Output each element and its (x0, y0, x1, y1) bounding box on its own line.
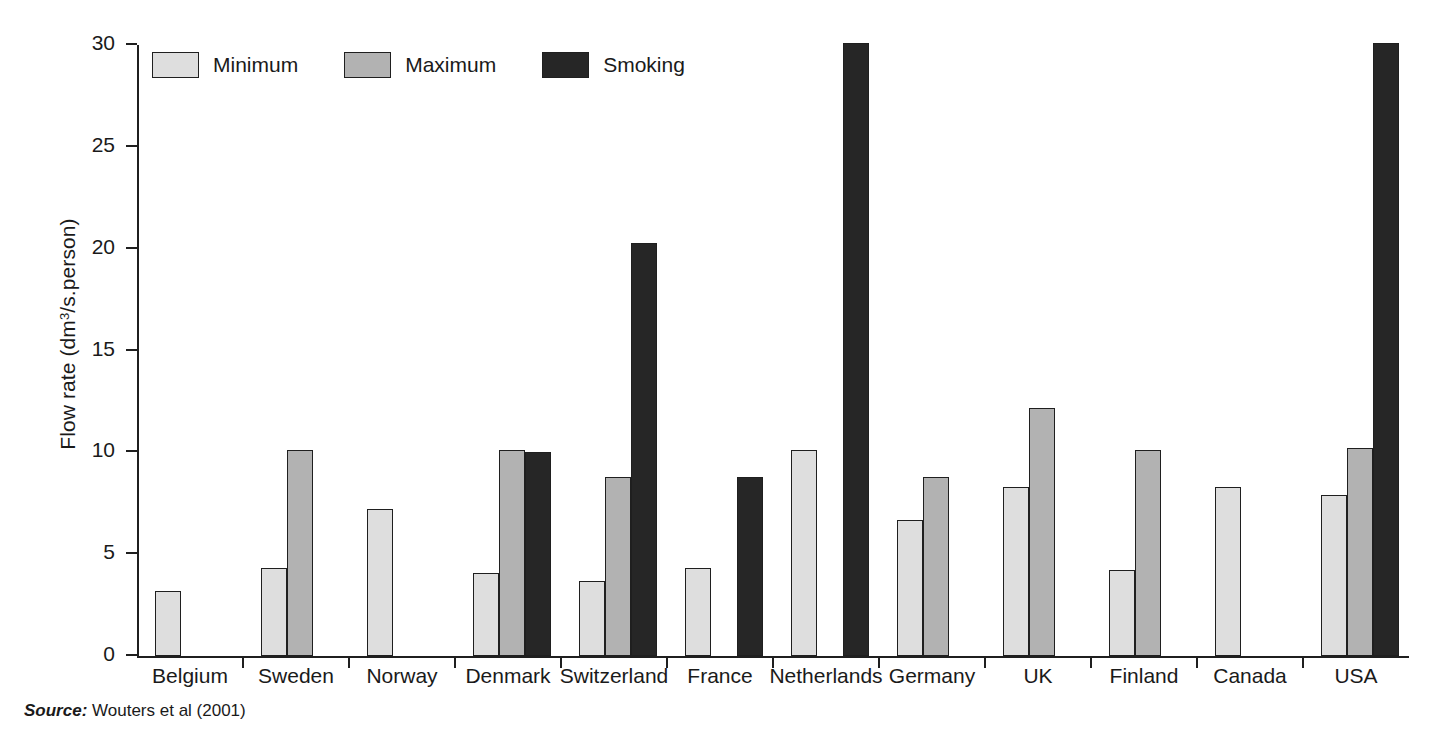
legend-swatch-smoking (542, 52, 589, 78)
y-tick-label: 5 (103, 540, 115, 564)
y-tick-label: 30 (92, 31, 115, 55)
bar-netherlands-smoking (843, 43, 869, 656)
legend-item-smoking: Smoking (542, 52, 685, 78)
legend-item-maximum: Maximum (344, 52, 496, 78)
legend-label-smoking: Smoking (603, 53, 685, 77)
y-tick-label: 0 (103, 642, 115, 666)
x-axis-label-usa: USA (1334, 664, 1377, 688)
legend-item-minimum: Minimum (152, 52, 298, 78)
bar-denmark-maximum (499, 450, 525, 656)
bar-switzerland-maximum (605, 477, 631, 656)
legend-label-minimum: Minimum (213, 53, 298, 77)
bar-uk-minimum (1003, 487, 1029, 656)
x-axis-label-denmark: Denmark (465, 664, 550, 688)
chart-figure: Flow rate (dm3/s.person) 051015202530 Be… (0, 0, 1430, 738)
source-prefix: Source: (24, 701, 87, 720)
x-axis-label-germany: Germany (889, 664, 975, 688)
bar-germany-maximum (923, 477, 949, 656)
bar-germany-minimum (897, 520, 923, 656)
bar-sweden-maximum (287, 450, 313, 656)
legend-swatch-minimum (152, 52, 199, 78)
x-tick-mark (1196, 658, 1198, 668)
bar-usa-minimum (1321, 495, 1347, 656)
y-tick-label: 25 (92, 133, 115, 157)
y-axis-line (137, 45, 139, 656)
bar-uk-maximum (1029, 408, 1055, 656)
x-axis-label-netherlands: Netherlands (769, 664, 882, 688)
y-tick-label: 15 (92, 337, 115, 361)
y-tick-mark (126, 552, 137, 554)
source-text: Wouters et al (2001) (92, 701, 246, 720)
x-tick-mark (1302, 658, 1304, 668)
bar-switzerland-minimum (579, 581, 605, 656)
y-tick-mark (126, 247, 137, 249)
x-axis-label-finland: Finland (1110, 664, 1179, 688)
x-axis-label-canada: Canada (1213, 664, 1287, 688)
source-note: Source: Wouters et al (2001) (24, 701, 246, 721)
legend-label-maximum: Maximum (405, 53, 496, 77)
bar-denmark-minimum (473, 573, 499, 657)
x-axis-label-sweden: Sweden (258, 664, 334, 688)
bar-denmark-smoking (525, 452, 551, 656)
bar-belgium-minimum (155, 591, 181, 656)
bar-sweden-minimum (261, 568, 287, 656)
x-axis-label-uk: UK (1023, 664, 1052, 688)
bar-france-smoking (737, 477, 763, 656)
y-tick-label: 10 (92, 438, 115, 462)
bar-netherlands-minimum (791, 450, 817, 656)
y-tick-label: 20 (92, 235, 115, 259)
bar-usa-smoking (1373, 43, 1399, 656)
plot-area: 051015202530 BelgiumSwedenNorwayDenmarkS… (137, 45, 1409, 656)
x-tick-mark (1090, 658, 1092, 668)
bar-norway-minimum (367, 509, 393, 656)
x-axis-label-switzerland: Switzerland (560, 664, 669, 688)
bar-canada-minimum (1215, 487, 1241, 656)
y-tick-mark (126, 349, 137, 351)
y-axis-label-superscript: 3 (57, 313, 72, 320)
bar-finland-maximum (1135, 450, 1161, 656)
y-tick-mark (126, 654, 137, 656)
bar-france-minimum (685, 568, 711, 656)
x-tick-mark (242, 658, 244, 668)
x-tick-mark (454, 658, 456, 668)
x-axis-label-norway: Norway (366, 664, 437, 688)
y-tick-mark (126, 450, 137, 452)
x-axis-label-belgium: Belgium (152, 664, 228, 688)
legend-swatch-maximum (344, 52, 391, 78)
bar-usa-maximum (1347, 448, 1373, 656)
x-tick-mark (348, 658, 350, 668)
x-tick-mark (984, 658, 986, 668)
bar-finland-minimum (1109, 570, 1135, 656)
x-axis-label-france: France (687, 664, 752, 688)
chart-legend: MinimumMaximumSmoking (152, 52, 731, 78)
y-axis-label-suffix: /s.person) (56, 218, 79, 312)
y-tick-mark (126, 145, 137, 147)
y-tick-mark (126, 43, 137, 45)
bar-switzerland-smoking (631, 243, 657, 656)
y-axis-label: Flow rate (dm3/s.person) (56, 54, 80, 614)
y-axis-label-prefix: Flow rate (dm (56, 320, 79, 450)
